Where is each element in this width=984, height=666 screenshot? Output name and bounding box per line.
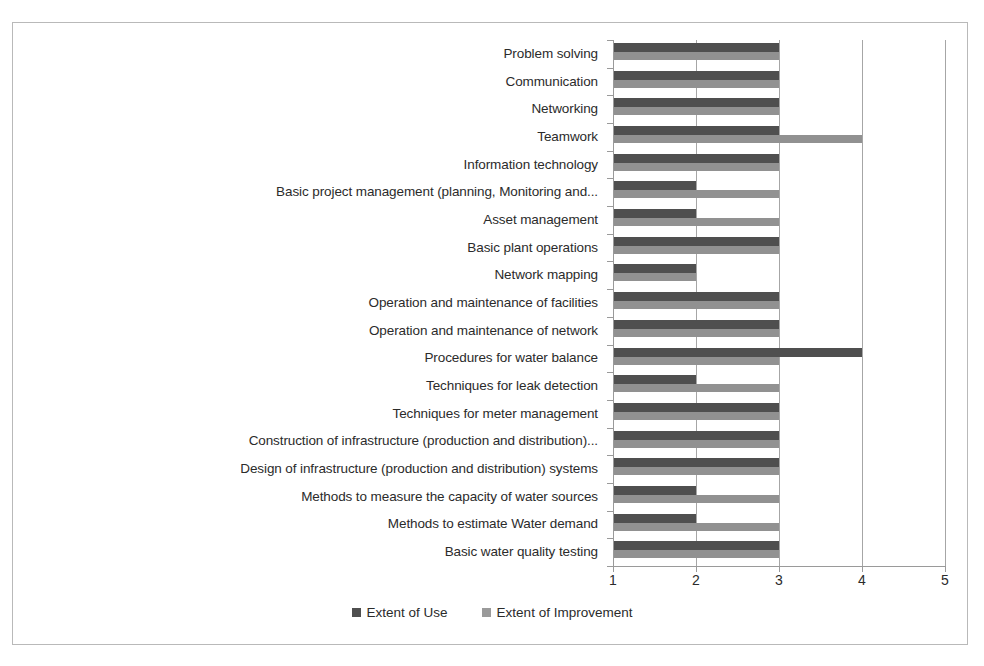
bar-extent-of-use bbox=[614, 264, 696, 273]
chart-row: Problem solving bbox=[0, 40, 984, 68]
bar-extent-of-use bbox=[614, 71, 779, 80]
bar-extent-of-improvement bbox=[614, 301, 779, 309]
bar-extent-of-use bbox=[614, 514, 696, 523]
bar-extent-of-improvement bbox=[614, 329, 779, 337]
legend-item-1[interactable]: Extent of Use bbox=[352, 605, 448, 620]
bar-extent-of-use bbox=[614, 541, 779, 550]
value-tick-label-4: 4 bbox=[842, 572, 882, 588]
category-label: Basic water quality testing bbox=[445, 544, 598, 560]
chart-row: Basic water quality testing bbox=[0, 538, 984, 566]
category-label: Procedures for water balance bbox=[424, 350, 598, 366]
bar-extent-of-improvement bbox=[614, 550, 779, 558]
category-label: Techniques for meter management bbox=[392, 406, 598, 422]
category-label: Methods to estimate Water demand bbox=[388, 516, 598, 532]
value-tick-label-3: 3 bbox=[759, 572, 799, 588]
bar-extent-of-improvement bbox=[614, 440, 779, 448]
chart-row: Operation and maintenance of facilities bbox=[0, 289, 984, 317]
chart-row: Networking bbox=[0, 95, 984, 123]
category-label: Information technology bbox=[464, 157, 598, 173]
bar-extent-of-use bbox=[614, 209, 696, 218]
bar-extent-of-improvement bbox=[614, 80, 779, 88]
chart-legend: Extent of UseExtent of Improvement bbox=[0, 605, 984, 620]
bar-extent-of-improvement bbox=[614, 523, 779, 531]
chart-row: Methods to estimate Water demand bbox=[0, 511, 984, 539]
category-label: Basic project management (planning, Moni… bbox=[276, 184, 598, 200]
chart-row: Information technology bbox=[0, 151, 984, 179]
bar-extent-of-improvement bbox=[614, 412, 779, 420]
bar-extent-of-use bbox=[614, 154, 779, 163]
legend-item-2[interactable]: Extent of Improvement bbox=[482, 605, 633, 620]
category-label: Network mapping bbox=[494, 267, 598, 283]
bar-extent-of-use bbox=[614, 348, 862, 357]
legend-label: Extent of Improvement bbox=[497, 605, 633, 620]
value-tick-label-5: 5 bbox=[925, 572, 965, 588]
chart-row: Techniques for leak detection bbox=[0, 372, 984, 400]
chart-row: Construction of infrastructure (producti… bbox=[0, 428, 984, 456]
chart-row: Basic plant operations bbox=[0, 234, 984, 262]
category-label: Design of infrastructure (production and… bbox=[240, 461, 598, 477]
category-label: Construction of infrastructure (producti… bbox=[249, 433, 598, 449]
bar-extent-of-improvement bbox=[614, 218, 779, 226]
category-label: Networking bbox=[531, 101, 598, 117]
bar-extent-of-use bbox=[614, 431, 779, 440]
category-label: Techniques for leak detection bbox=[426, 378, 598, 394]
category-label: Operation and maintenance of network bbox=[369, 323, 598, 339]
bar-extent-of-improvement bbox=[614, 246, 779, 254]
category-label: Problem solving bbox=[503, 46, 598, 62]
bar-extent-of-use bbox=[614, 375, 696, 384]
category-label: Basic plant operations bbox=[467, 240, 598, 256]
bar-extent-of-improvement bbox=[614, 273, 696, 281]
chart-row: Communication bbox=[0, 68, 984, 96]
bar-extent-of-use bbox=[614, 126, 779, 135]
category-label: Operation and maintenance of facilities bbox=[369, 295, 599, 311]
chart-row: Network mapping bbox=[0, 261, 984, 289]
bar-extent-of-improvement bbox=[614, 107, 779, 115]
bar-extent-of-use bbox=[614, 292, 779, 301]
bar-extent-of-improvement bbox=[614, 163, 779, 171]
bar-extent-of-use bbox=[614, 403, 779, 412]
value-tick-label-2: 2 bbox=[676, 572, 716, 588]
category-label: Communication bbox=[506, 74, 599, 90]
bar-extent-of-improvement bbox=[614, 384, 779, 392]
bar-extent-of-use bbox=[614, 43, 779, 52]
legend-swatch-icon bbox=[352, 608, 361, 617]
legend-label: Extent of Use bbox=[367, 605, 448, 620]
bar-extent-of-use bbox=[614, 486, 696, 495]
bar-extent-of-use bbox=[614, 181, 696, 190]
chart-row: Design of infrastructure (production and… bbox=[0, 455, 984, 483]
bar-extent-of-use bbox=[614, 320, 779, 329]
chart-row: Basic project management (planning, Moni… bbox=[0, 178, 984, 206]
chart-row: Methods to measure the capacity of water… bbox=[0, 483, 984, 511]
category-label: Methods to measure the capacity of water… bbox=[301, 489, 598, 505]
bar-chart-plot-area: Problem solvingCommunicationNetworkingTe… bbox=[0, 0, 984, 666]
bar-extent-of-use bbox=[614, 458, 779, 467]
chart-row: Teamwork bbox=[0, 123, 984, 151]
bar-extent-of-use bbox=[614, 98, 779, 107]
chart-row: Asset management bbox=[0, 206, 984, 234]
category-label: Teamwork bbox=[537, 129, 598, 145]
value-tick-label-1: 1 bbox=[593, 572, 633, 588]
bar-extent-of-use bbox=[614, 237, 779, 246]
bar-extent-of-improvement bbox=[614, 135, 862, 143]
bar-extent-of-improvement bbox=[614, 52, 779, 60]
bar-extent-of-improvement bbox=[614, 357, 779, 365]
chart-row: Procedures for water balance bbox=[0, 345, 984, 373]
legend-swatch-icon bbox=[482, 608, 491, 617]
category-label: Asset management bbox=[483, 212, 598, 228]
bar-extent-of-improvement bbox=[614, 467, 779, 475]
bar-extent-of-improvement bbox=[614, 495, 779, 503]
chart-row: Techniques for meter management bbox=[0, 400, 984, 428]
bar-extent-of-improvement bbox=[614, 190, 779, 198]
chart-row: Operation and maintenance of network bbox=[0, 317, 984, 345]
